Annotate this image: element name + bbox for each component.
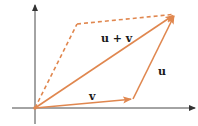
label-u-plus-v: u + v [101, 32, 133, 45]
dashed-v-side [77, 15, 172, 25]
vector-u-plus-v [35, 16, 173, 109]
label-v: v [88, 90, 96, 103]
dashed-u-side [35, 24, 77, 108]
origin-point [33, 106, 37, 110]
label-u: u [158, 65, 166, 78]
vector-diagram: u + v u v [0, 0, 198, 126]
vector-v [35, 99, 131, 108]
